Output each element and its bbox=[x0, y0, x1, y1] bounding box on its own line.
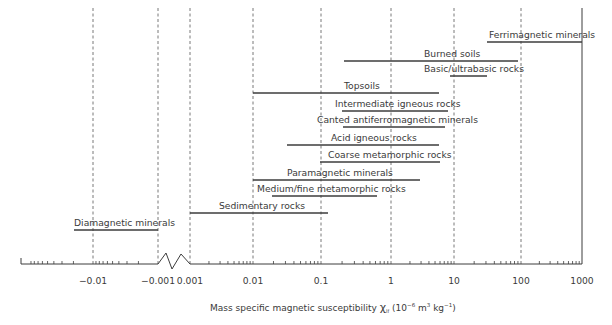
tick-label: 100 bbox=[512, 275, 530, 286]
bar-label: Paramagnetic minerals bbox=[287, 167, 393, 178]
bar-label: Basic/ultrabasic rocks bbox=[424, 63, 524, 74]
tick-label: 0.01 bbox=[243, 275, 263, 286]
range-bar: Ferrimagnetic minerals bbox=[487, 29, 595, 42]
range-bar: Basic/ultrabasic rocks bbox=[424, 63, 524, 76]
tick-label: −0.01 bbox=[79, 275, 107, 286]
bar-label: Medium/fine metamorphic rocks bbox=[257, 183, 406, 194]
bar-label: Burned soils bbox=[424, 48, 480, 59]
tick-label: −0.001 bbox=[141, 275, 175, 286]
range-bar: Sedimentary rocks bbox=[190, 200, 328, 213]
tick-labels: −0.01−0.0010.0010.010.11101001000 bbox=[79, 275, 594, 286]
bar-label: Canted antiferromagnetic minerals bbox=[317, 114, 478, 125]
range-bar: Acid igneous rocks bbox=[287, 132, 439, 145]
bar-label: Intermediate igneous rocks bbox=[335, 98, 461, 109]
bar-label: Acid igneous rocks bbox=[331, 132, 417, 143]
range-bar: Burned soils bbox=[344, 48, 518, 61]
tick-label: 0.1 bbox=[314, 275, 329, 286]
tick-label: 0.001 bbox=[177, 275, 203, 286]
range-bar: Medium/fine metamorphic rocks bbox=[257, 183, 406, 196]
chart-canvas: Ferrimagnetic mineralsBurned soilsBasic/… bbox=[0, 0, 612, 325]
x-axis-label: Mass specific magnetic susceptibility χl… bbox=[210, 301, 456, 314]
bar-label: Sedimentary rocks bbox=[219, 200, 305, 211]
tick-label: 1000 bbox=[570, 275, 594, 286]
tick-label: 1 bbox=[388, 275, 394, 286]
range-bars: Ferrimagnetic mineralsBurned soilsBasic/… bbox=[74, 29, 595, 230]
range-bar: Paramagnetic minerals bbox=[253, 167, 420, 180]
bar-label: Topsoils bbox=[343, 80, 380, 91]
tick-label: 10 bbox=[448, 275, 460, 286]
bar-label: Diamagnetic minerals bbox=[74, 217, 175, 228]
range-bar: Intermediate igneous rocks bbox=[335, 98, 461, 111]
bar-label: Ferrimagnetic minerals bbox=[489, 29, 595, 40]
bar-label: Coarse metamorphic rocks bbox=[328, 149, 452, 160]
range-bar: Coarse metamorphic rocks bbox=[320, 149, 452, 162]
range-bar: Diamagnetic minerals bbox=[74, 217, 175, 230]
range-bar: Topsoils bbox=[253, 80, 439, 93]
